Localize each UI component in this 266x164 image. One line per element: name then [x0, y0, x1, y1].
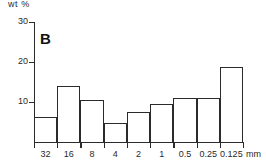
- x-tick-mark: [173, 142, 174, 148]
- x-tick-mark: [34, 142, 35, 148]
- x-tick-mark: [127, 142, 128, 148]
- x-tick-label: 1: [159, 149, 164, 159]
- x-tick-label: 16: [64, 149, 74, 159]
- x-tick-mark: [243, 142, 244, 148]
- x-tick-mark: [220, 142, 221, 148]
- x-tick-label: 0.25: [199, 149, 217, 159]
- histogram-bar: [220, 67, 243, 142]
- histogram-bar: [197, 98, 220, 142]
- histogram-figure: wt % B 102030 321684210.50.250.125 mm: [0, 0, 266, 164]
- y-tick-mark: [29, 22, 35, 23]
- histogram-bar: [173, 98, 196, 142]
- panel-label: B: [40, 30, 51, 47]
- histogram-bar: [80, 100, 103, 142]
- y-tick-label: 10: [6, 96, 28, 106]
- x-tick-label: 4: [113, 149, 118, 159]
- x-tick-label: 0.125: [220, 149, 243, 159]
- x-tick-mark: [104, 142, 105, 148]
- y-tick-label: 30: [6, 16, 28, 26]
- x-tick-mark: [57, 142, 58, 148]
- x-tick-mark: [150, 142, 151, 148]
- x-tick-label: 32: [41, 149, 51, 159]
- histogram-bar: [104, 123, 127, 142]
- x-tick-label: 0.5: [179, 149, 192, 159]
- y-axis-title: wt %: [8, 0, 30, 9]
- x-axis-unit-label: mm: [246, 149, 261, 159]
- x-tick-mark: [80, 142, 81, 148]
- x-axis-line: [34, 142, 243, 143]
- histogram-bar: [150, 104, 173, 142]
- x-tick-mark: [197, 142, 198, 148]
- histogram-bar: [34, 117, 57, 142]
- y-tick-mark: [29, 62, 35, 63]
- y-tick-label: 20: [6, 56, 28, 66]
- y-tick-mark: [29, 102, 35, 103]
- x-tick-label: 2: [136, 149, 141, 159]
- histogram-bar: [127, 112, 150, 142]
- histogram-bar: [57, 86, 80, 142]
- x-tick-label: 8: [90, 149, 95, 159]
